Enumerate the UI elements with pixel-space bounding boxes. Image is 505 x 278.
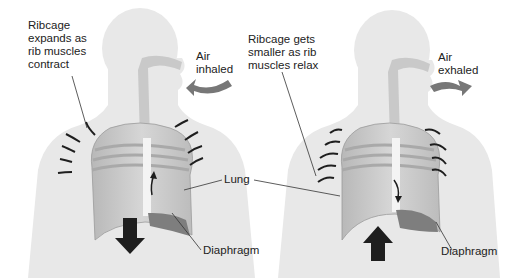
label-lung: Lung <box>224 173 250 186</box>
label-diaphragm-right: Diaphragm <box>441 245 497 258</box>
label-ribcage-smaller: Ribcage gets smaller as rib muscles rela… <box>248 33 318 72</box>
label-air-inhaled: Air inhaled <box>196 50 233 76</box>
label-air-exhaled: Air exhaled <box>438 51 478 77</box>
breathing-diagram: Ribcage expands as rib muscles contract … <box>0 0 505 278</box>
ribcage-leader-line <box>72 76 87 128</box>
air-exhaled-arrow-icon <box>430 80 472 96</box>
air-inhaled-arrow-icon <box>186 79 232 96</box>
label-ribcage-expands: Ribcage expands as rib muscles contract <box>28 19 87 71</box>
label-diaphragm-left: Diaphragm <box>203 244 259 257</box>
